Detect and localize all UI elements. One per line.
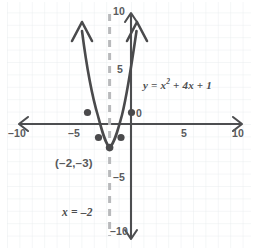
vertex-point-marker	[106, 144, 114, 152]
point-marker	[128, 109, 135, 116]
equation-prefix: y = x	[143, 79, 166, 91]
y-tick-label-plus10: 10	[113, 6, 125, 17]
graph-svg	[0, 0, 258, 250]
equation-suffix: + 4x + 1	[170, 79, 212, 91]
x-tick-label-minus5: –5	[68, 128, 80, 139]
origin-label: 0	[136, 108, 142, 119]
y-tick-label-minus5: –5	[113, 172, 125, 183]
x-tick-label-plus10: 10	[232, 128, 244, 139]
point-marker	[117, 134, 124, 141]
quadratic-graph-figure: –10 –5 5 10 10 5 –5 –10 0 y = x2 + 4x + …	[0, 0, 258, 250]
axis-of-symmetry-label: x = –2	[62, 207, 93, 219]
point-marker	[95, 134, 102, 141]
y-tick-label-plus5: 5	[117, 64, 123, 75]
equation-label: y = x2 + 4x + 1	[143, 78, 212, 91]
x-tick-label-minus10: –10	[8, 128, 26, 139]
x-tick-label-plus5: 5	[181, 128, 187, 139]
point-marker	[84, 109, 91, 116]
vertex-label: (–2,–3)	[55, 158, 93, 170]
y-tick-label-minus10: –10	[110, 226, 128, 237]
